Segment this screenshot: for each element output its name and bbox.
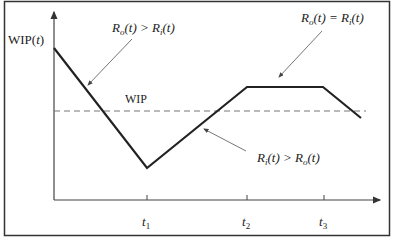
tick-label-t2: t2 (242, 214, 250, 231)
y-axis-label: WIP(t) (8, 32, 44, 47)
arrow-inflow-greater (204, 129, 246, 151)
annotation-inflow-greater: Ri(t) > Ro(t) (256, 150, 320, 167)
diagram-frame: WIP(t) WIP Ro(t) > Ri(t) Ro(t) = Ri(t) R… (0, 0, 393, 238)
annotation-rates-equal: Ro(t) = Ri(t) (300, 10, 364, 27)
tick-label-t1: t1 (142, 214, 150, 231)
tick-label-t3: t3 (319, 214, 328, 231)
arrow-rates-equal (279, 31, 322, 77)
arrow-outflow-greater (88, 39, 132, 85)
wip-reference-label: WIP (125, 92, 147, 106)
wip-diagram: WIP(t) WIP Ro(t) > Ri(t) Ro(t) = Ri(t) R… (0, 0, 393, 238)
annotation-outflow-greater: Ro(t) > Ri(t) (111, 20, 175, 37)
